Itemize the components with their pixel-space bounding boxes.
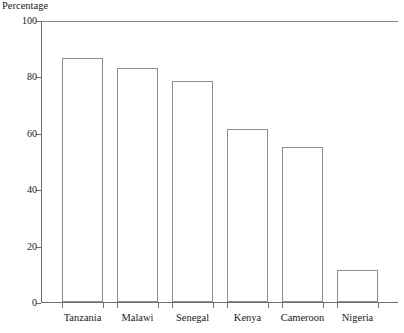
bar	[62, 58, 103, 302]
top-rule	[41, 21, 398, 22]
y-tick-label: 40	[27, 185, 37, 195]
bar-chart: Percentage 020406080100 TanzaniaMalawiSe…	[0, 0, 404, 333]
y-axis-title: Percentage	[2, 0, 48, 12]
y-tick-label: 20	[27, 242, 37, 252]
x-tick-mark	[172, 303, 173, 308]
bar	[172, 81, 213, 302]
y-tick-label: 100	[22, 16, 37, 26]
x-tick-mark	[227, 303, 228, 308]
x-tick-label: Tanzania	[64, 312, 102, 324]
x-tick-mark	[158, 303, 159, 308]
x-tick-label: Cameroon	[281, 312, 325, 324]
x-tick-label: Nigeria	[342, 312, 374, 324]
bar	[282, 147, 323, 302]
x-tick-label: Kenya	[234, 312, 261, 324]
x-tick-label: Senegal	[176, 312, 209, 324]
y-axis-line	[41, 21, 42, 303]
x-tick-mark	[337, 303, 338, 308]
x-tick-mark	[323, 303, 324, 308]
x-tick-mark	[213, 303, 214, 308]
y-tick-label: 80	[27, 72, 37, 82]
bar	[337, 270, 378, 302]
x-tick-mark	[62, 303, 63, 308]
x-tick-label: Malawi	[121, 312, 153, 324]
bar	[227, 129, 268, 302]
x-axis-line	[41, 302, 398, 303]
y-tick-label: 0	[32, 298, 37, 308]
x-tick-mark	[268, 303, 269, 308]
x-tick-mark	[282, 303, 283, 308]
y-tick-label: 60	[27, 129, 37, 139]
x-tick-mark	[103, 303, 104, 308]
x-tick-mark	[117, 303, 118, 308]
bar	[117, 68, 158, 302]
plot-area: 020406080100	[41, 21, 398, 303]
x-tick-mark	[378, 303, 379, 308]
